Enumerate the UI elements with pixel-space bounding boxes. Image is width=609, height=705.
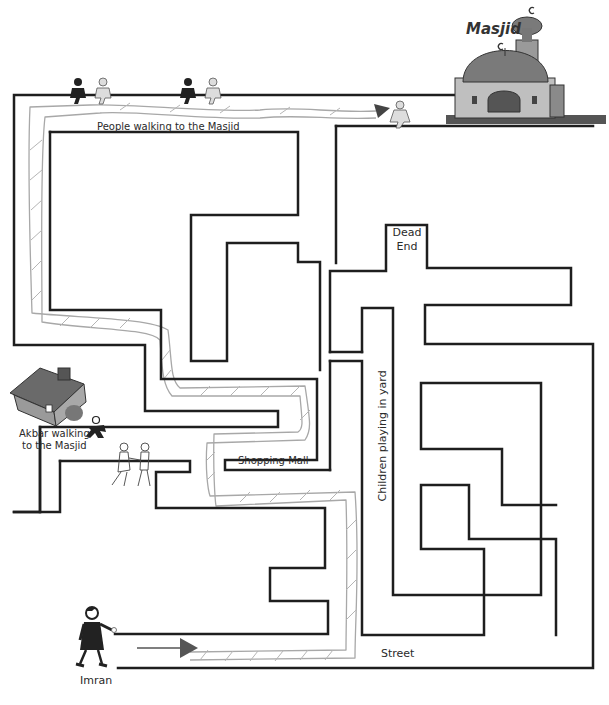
dead-end-line2: End	[390, 240, 424, 254]
akbar-label-line1: Akbar walking	[19, 428, 90, 440]
wall-dead-end-and-outer-right	[118, 225, 593, 668]
solution-path	[29, 105, 376, 660]
people-walking-label: People walking to the Masjid	[97, 121, 240, 132]
akbar-house	[10, 368, 86, 426]
start-arrow	[137, 638, 198, 658]
maze-diagram: Masjid People walking to the Masjid Dead…	[0, 0, 609, 705]
wall-inner-topleft	[50, 132, 320, 370]
children-figures	[112, 443, 150, 486]
walker-near-masjid	[374, 101, 410, 128]
wall-lower-left	[60, 461, 328, 634]
wall-lower-left-cap	[14, 461, 60, 512]
walker-group-2	[180, 78, 221, 104]
wall-children-yard	[362, 308, 556, 595]
akbar-label: Akbar walking to the Masjid	[19, 428, 90, 452]
dead-end-label: Dead End	[390, 226, 424, 254]
imran-label: Imran	[80, 674, 112, 687]
children-playing-label: Children playing in yard	[376, 372, 389, 502]
imran-figure	[76, 607, 117, 666]
street-label: Street	[381, 647, 414, 660]
masjid-label: Masjid	[466, 20, 521, 38]
maze-canvas	[0, 0, 609, 705]
walker-group-1	[70, 78, 111, 104]
maze-walls	[14, 95, 593, 668]
dead-end-line1: Dead	[390, 226, 424, 240]
akbar-label-line2: to the Masjid	[19, 440, 90, 452]
shopping-mall-label: Shopping Mall	[238, 455, 308, 466]
